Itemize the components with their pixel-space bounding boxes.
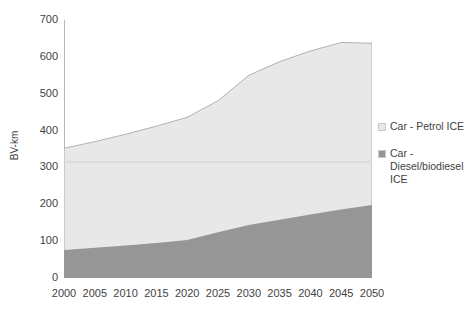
- x-tick-label-2045: 2045: [329, 288, 353, 299]
- x-tick-label-2020: 2020: [175, 288, 199, 299]
- chart-legend: Car - Petrol ICECar - Diesel/biodiesel I…: [378, 120, 468, 200]
- light-gray-square-icon: [378, 123, 386, 131]
- x-tick-label-2005: 2005: [83, 288, 107, 299]
- dark-gray-square-icon: [378, 150, 386, 158]
- x-tick-label-2035: 2035: [267, 288, 291, 299]
- legend-item-petrol[interactable]: Car - Petrol ICE: [378, 120, 468, 133]
- x-tick-label-2040: 2040: [298, 288, 322, 299]
- plot-area: [64, 20, 372, 278]
- x-tick-label-2030: 2030: [237, 288, 261, 299]
- x-tick-label-2050: 2050: [360, 288, 384, 299]
- legend-item-label: Car - Petrol ICE: [390, 120, 464, 133]
- legend-item-label: Car - Diesel/biodiesel ICE: [390, 147, 468, 186]
- x-tick-label-2010: 2010: [113, 288, 137, 299]
- x-tick-label-2000: 2000: [52, 288, 76, 299]
- x-tick-label-2025: 2025: [206, 288, 230, 299]
- chart-container: BV-km 7006005004003002001000 20002005201…: [0, 0, 469, 318]
- x-tick-label-2015: 2015: [144, 288, 168, 299]
- legend-item-diesel[interactable]: Car - Diesel/biodiesel ICE: [378, 147, 468, 186]
